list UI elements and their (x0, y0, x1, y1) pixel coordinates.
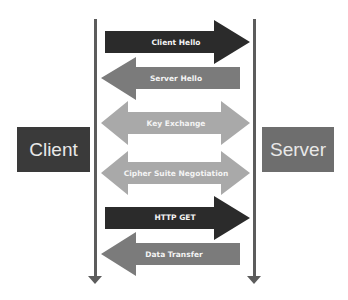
http-get-label: HTTP GET (154, 213, 195, 222)
handshake-diagram: Client Server Client Hello Server Hello … (0, 0, 348, 300)
cipher-suite-negotiation-label: Cipher Suite Negotiation (124, 169, 229, 178)
data-transfer-label: Data Transfer (145, 250, 202, 259)
key-exchange-label: Key Exchange (147, 119, 206, 128)
server-hello-label: Server Hello (150, 74, 202, 83)
client-hello-label: Client Hello (152, 38, 201, 47)
